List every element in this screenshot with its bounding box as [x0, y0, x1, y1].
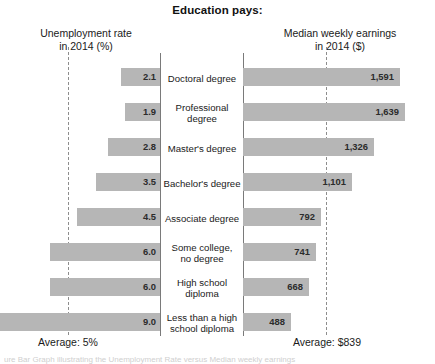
unemployment-value-label: 6.0 — [143, 278, 156, 296]
unemployment-value-label: 3.5 — [143, 173, 156, 191]
category-label-line: Associate degree — [161, 212, 243, 223]
page-title: Education pays: — [0, 4, 435, 16]
category-label-line: Master's degree — [161, 142, 243, 153]
earnings-value-label: 741 — [243, 243, 310, 261]
category-label-line: diploma — [161, 288, 243, 299]
earnings-value-label: 668 — [243, 278, 303, 296]
chart-row: Bachelor's degree3.51,101 — [0, 165, 435, 200]
category-label: Professionaldegree — [161, 102, 243, 124]
category-label-line: High school — [161, 277, 243, 288]
earnings-value-label: 488 — [243, 313, 285, 331]
category-label-line: Professional — [161, 102, 243, 113]
earnings-value-label: 1,101 — [243, 173, 346, 191]
category-label: Associate degree — [161, 212, 243, 223]
unemployment-value-label: 1.9 — [143, 103, 156, 121]
category-label-line: Less than a high — [161, 312, 243, 323]
earnings-value-label: 1,639 — [243, 103, 399, 121]
chart-row: Master's degree2.81,326 — [0, 130, 435, 165]
category-label-line: no degree — [161, 253, 243, 264]
chart-row: Associate degree4.5792 — [0, 200, 435, 235]
chart-row: Doctoral degree2.11,591 — [0, 60, 435, 95]
left-axis-title-line1: Unemployment rate — [40, 27, 132, 39]
left-axis-title-line2: in 2014 (%) — [6, 40, 166, 53]
category-label-line: degree — [161, 113, 243, 124]
category-label: Master's degree — [161, 142, 243, 153]
left-axis-title: Unemployment rate in 2014 (%) — [6, 27, 166, 52]
category-label: Doctoral degree — [161, 72, 243, 83]
category-label: Less than a highschool diploma — [161, 312, 243, 334]
category-label: Bachelor's degree — [161, 177, 243, 188]
right-axis-title-line1: Median weekly earnings — [284, 27, 397, 39]
unemployment-value-label: 2.1 — [143, 68, 156, 86]
category-label-line: Some college, — [161, 242, 243, 253]
chart-row: Professionaldegree1.91,639 — [0, 95, 435, 130]
chart-row: Some college,no degree6.0741 — [0, 235, 435, 270]
category-label: Some college,no degree — [161, 242, 243, 264]
unemployment-value-label: 2.8 — [143, 138, 156, 156]
right-axis-title: Median weekly earnings in 2014 ($) — [252, 27, 428, 52]
chart-row: High schooldiploma6.0668 — [0, 270, 435, 305]
earnings-value-label: 1,326 — [243, 138, 368, 156]
unemployment-value-label: 6.0 — [143, 243, 156, 261]
earnings-value-label: 1,591 — [243, 68, 394, 86]
category-label-line: school diploma — [161, 323, 243, 334]
figure-caption: ure Bar Graph illustrating the Unemploym… — [4, 355, 432, 364]
unemployment-value-label: 4.5 — [143, 208, 156, 226]
education-pays-chart: Education pays: Unemployment rate in 201… — [0, 0, 435, 364]
chart-row: Less than a highschool diploma9.0488 — [0, 305, 435, 340]
category-label: High schooldiploma — [161, 277, 243, 299]
earnings-value-label: 792 — [243, 208, 315, 226]
unemployment-bar — [0, 313, 160, 331]
category-label-line: Bachelor's degree — [161, 177, 243, 188]
category-label-line: Doctoral degree — [161, 72, 243, 83]
unemployment-value-label: 9.0 — [143, 313, 156, 331]
right-axis-title-line2: in 2014 ($) — [252, 40, 428, 53]
